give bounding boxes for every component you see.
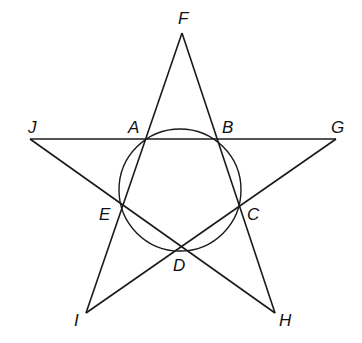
label-g: G <box>331 118 344 137</box>
label-a: A <box>127 118 139 137</box>
segment-fh <box>182 33 275 313</box>
star-circle-diagram: F J A B G E C D I H <box>0 0 362 343</box>
label-h: H <box>279 311 292 330</box>
label-j: J <box>27 118 37 137</box>
label-c: C <box>247 205 260 224</box>
segment-jh <box>30 139 275 313</box>
label-d: D <box>173 256 185 275</box>
segment-gi <box>86 139 336 313</box>
label-e: E <box>99 205 111 224</box>
label-i: I <box>74 311 79 330</box>
segment-fi <box>86 33 182 313</box>
inscribed-circle <box>119 129 241 251</box>
label-b: B <box>222 118 233 137</box>
label-f: F <box>178 9 190 28</box>
